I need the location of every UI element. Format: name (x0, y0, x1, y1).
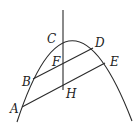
label-b: B (21, 75, 31, 89)
label-d: D (94, 36, 105, 50)
label-c: C (47, 32, 56, 46)
label-f: F (51, 55, 61, 69)
label-a: A (9, 102, 19, 116)
parabola-curve (17, 41, 132, 122)
label-h: H (65, 87, 77, 101)
label-e: E (109, 55, 119, 69)
geometry-diagram: C D F E B H A (0, 0, 140, 127)
